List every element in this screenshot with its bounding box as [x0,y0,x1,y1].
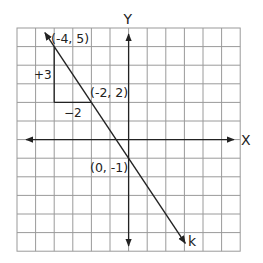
line-name-label: k [188,233,197,249]
run-label: −2 [64,106,82,120]
point-label-neg4-5: (-4, 5) [51,31,89,46]
coordinate-plane-figure: X Y +3 −2 (-4, 5) (-2, 2) (0, -1) k [0,0,263,263]
rise-label: +3 [34,68,52,82]
point-label-0-neg1: (0, -1) [90,160,128,175]
point-label-neg2-2: (-2, 2) [90,85,128,100]
x-axis-label: X [241,132,251,148]
line-k [45,33,185,244]
y-axis-label: Y [123,11,133,27]
